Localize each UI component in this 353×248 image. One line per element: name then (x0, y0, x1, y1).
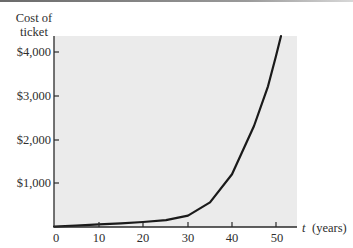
x-tick-label-20: 20 (137, 231, 150, 245)
y-tick-label-2000: $2,000 (17, 133, 51, 147)
chart: Cost of ticket $4,000 $3,000 $2,000 $1,0… (0, 0, 353, 248)
x-tick-label-50: 50 (271, 231, 284, 245)
y-axis-title-line1: Cost of (16, 11, 53, 25)
y-tick-label-4000: $4,000 (17, 45, 51, 59)
y-tick-label-3000: $3,000 (17, 89, 51, 103)
plot-area (54, 36, 297, 227)
x-axis-title-unit: (years) (312, 221, 347, 235)
x-tick-label-10: 10 (93, 231, 106, 245)
x-axis-title-var: t (302, 221, 306, 235)
y-tick-label-1000: $1,000 (17, 176, 51, 190)
x-tick-label-0: 0 (53, 231, 59, 245)
y-axis-title-line2: ticket (20, 25, 48, 39)
x-tick-label-30: 30 (182, 231, 195, 245)
x-tick-label-40: 40 (226, 231, 239, 245)
